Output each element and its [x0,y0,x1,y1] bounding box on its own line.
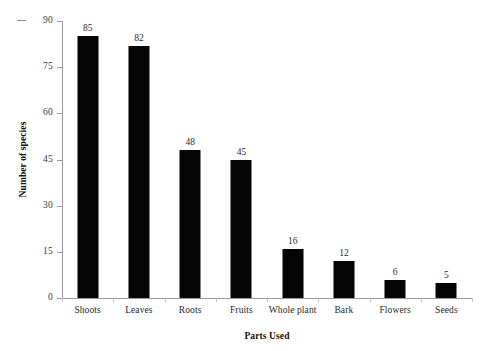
x-tick [165,298,166,302]
x-category-label: Leaves [113,305,164,316]
bar [282,249,303,298]
x-tick [267,298,268,302]
y-tick-label: 60 [13,108,53,118]
bar-value-label: 5 [444,270,449,280]
x-category-label: Whole plant [267,305,318,316]
x-tick [216,298,217,302]
bar-value-label: 82 [134,33,144,43]
bar-group: 48 [165,21,216,298]
x-tick [421,298,422,302]
y-tick-label: 15 [13,247,53,257]
bar [436,283,457,298]
bar-group: 82 [113,21,164,298]
y-tick-label: 45 [13,155,53,165]
bar-value-label: 45 [237,147,247,157]
bar [333,261,354,298]
y-tick-label: 30 [13,201,53,211]
bar-value-label: 48 [185,137,195,147]
bar [128,46,149,298]
plot-area: 85824845161265 [62,21,472,298]
bar [231,160,252,299]
bar-value-label: 12 [339,248,349,258]
x-category-label: Bark [318,305,369,316]
bar-group: 12 [318,21,369,298]
x-category-label: Flowers [370,305,421,316]
x-axis-title: Parts Used [62,331,472,341]
x-category-label: Roots [165,305,216,316]
x-category-label: Seeds [421,305,472,316]
bar-chart-figure: Number of species Parts Used 01530456075… [0,0,482,351]
bar [385,280,406,298]
bar-value-label: 85 [83,23,93,33]
bar-value-label: 16 [288,236,298,246]
y-tick-label: 75 [13,62,53,72]
x-tick [370,298,371,302]
bar-group: 5 [421,21,472,298]
x-tick [113,298,114,302]
bar [180,150,201,298]
bar-group: 85 [62,21,113,298]
bar-value-label: 6 [393,267,398,277]
bar-group: 16 [267,21,318,298]
bar [77,36,98,298]
x-tick [318,298,319,302]
x-tick [62,298,63,302]
x-category-label: Shoots [62,305,113,316]
bar-group: 6 [370,21,421,298]
y-tick-label: 90 [13,16,53,26]
x-tick [472,298,473,302]
x-category-label: Fruits [216,305,267,316]
bar-group: 45 [216,21,267,298]
y-tick-label: 0 [13,293,53,303]
